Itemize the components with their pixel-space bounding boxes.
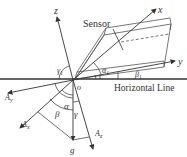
ay-label: Ay bbox=[4, 93, 13, 103]
ax-label: Ax bbox=[21, 120, 30, 130]
sensor-label: Sensor bbox=[83, 18, 111, 29]
beta1-label: β1 bbox=[134, 70, 142, 80]
gravity-label: g bbox=[70, 145, 75, 155]
z-axis-label: z bbox=[53, 5, 58, 16]
origin-label: o bbox=[77, 83, 81, 92]
tilt-sensor-diagram: z x y Sensor Horizontal Line o g Ay Ax A… bbox=[0, 0, 187, 157]
alpha1-label: α1 bbox=[102, 66, 109, 76]
y-axis-label: y bbox=[177, 56, 183, 67]
x-axis-label: x bbox=[157, 4, 163, 15]
beta-label: β bbox=[54, 109, 60, 119]
az-label: Az bbox=[94, 129, 103, 139]
alpha-label: α bbox=[64, 101, 69, 111]
gamma1-label: γ1 bbox=[57, 66, 63, 76]
horizontal-line-label: Horizontal Line bbox=[114, 83, 174, 93]
gamma-label: γ bbox=[74, 109, 78, 119]
